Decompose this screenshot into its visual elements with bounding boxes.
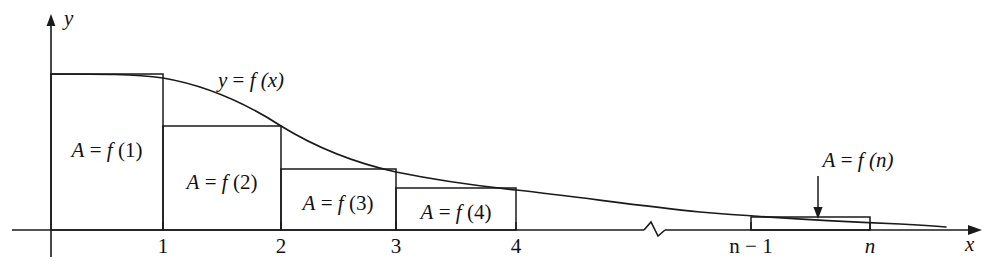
area-label-f2: A = f (2) <box>187 172 258 193</box>
axis-break-zigzag <box>644 222 665 236</box>
tick-label-n: n <box>865 236 876 257</box>
curve-label: y = f (x) <box>218 70 284 91</box>
area-label-f1-eq: = <box>90 138 102 162</box>
area-label-f4-eq: = <box>439 200 451 224</box>
figure-canvas <box>0 0 1001 275</box>
x-axis-label: x <box>965 234 974 255</box>
area-label-f1: A = f (1) <box>72 140 143 161</box>
area-label-f2-arg: (2) <box>233 170 258 194</box>
integral-test-figure: y x y = f (x) A = f (1) A = f (2) A = f … <box>0 0 1001 275</box>
area-label-f1-arg: (1) <box>118 138 143 162</box>
y-axis-arrowhead <box>47 14 56 26</box>
curve-label-f: f <box>250 68 256 92</box>
tick-label-n-minus-1: n − 1 <box>729 236 772 257</box>
area-label-f3-eq: = <box>321 191 333 215</box>
tick-label-1: 1 <box>158 236 169 257</box>
function-curve <box>51 74 946 227</box>
area-label-f4-A: A <box>421 200 434 224</box>
area-label-f1-f: f <box>107 138 113 162</box>
curve-label-eq: = <box>233 68 245 92</box>
area-label-f2-eq: = <box>205 170 217 194</box>
callout-label-f: f <box>858 148 864 172</box>
curve-label-y: y <box>218 68 227 92</box>
callout-arrow <box>813 176 822 219</box>
area-label-f4: A = f (4) <box>421 202 492 223</box>
area-label-f3-arg: (3) <box>349 191 374 215</box>
area-label-f3-A: A <box>303 191 316 215</box>
curve-label-arg: (x) <box>261 68 284 92</box>
area-label-f2-A: A <box>187 170 200 194</box>
callout-label-arg: (n) <box>869 148 894 172</box>
area-label-f3-f: f <box>338 191 344 215</box>
tick-label-3: 3 <box>391 236 402 257</box>
area-label-f2-f: f <box>222 170 228 194</box>
callout-label-A: A <box>823 148 836 172</box>
tick-label-2: 2 <box>276 236 287 257</box>
area-label-f4-arg: (4) <box>467 200 492 224</box>
callout-label-eq: = <box>841 148 853 172</box>
y-axis-label: y <box>64 8 73 29</box>
area-label-f4-f: f <box>456 200 462 224</box>
area-label-f3: A = f (3) <box>303 193 374 214</box>
tick-label-4: 4 <box>511 236 522 257</box>
callout-label-fn: A = f (n) <box>823 150 894 171</box>
area-label-f1-A: A <box>72 138 85 162</box>
